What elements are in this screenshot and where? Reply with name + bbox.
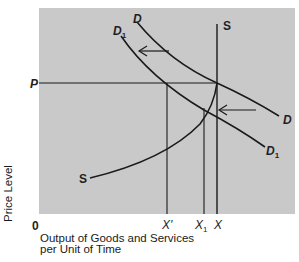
shift-arrow-upper [139,46,169,56]
diagram-lines [0,0,299,262]
demand-shifted-subscript: 1 [275,151,279,160]
demand-curve [137,22,279,116]
x-axis-label: Output of Goods and Services per Unit of… [40,233,194,255]
demand-shifted-letter: D [266,144,275,158]
price-label: P [30,78,38,90]
demand-shifted-label-right: D1 [266,145,279,160]
demand-shifted-label-top: D1 [113,25,126,40]
x1-label: X1 [195,219,207,234]
x-axis-label-line2: per Unit of Time [40,244,194,255]
y-axis-label: Price Level [2,162,14,222]
origin-label: 0 [32,220,39,232]
supply-label-bottom: S [79,173,87,185]
x-label: X [214,219,222,231]
x1-letter: X [195,218,203,232]
x1-subscript: 1 [203,225,207,234]
supply-curve [90,83,217,178]
demand-label-right: D [283,114,292,126]
demand-shifted-letter: D [113,24,122,38]
demand-label-top: D [133,13,142,25]
supply-label-top: S [223,20,231,32]
x-prime-label: X' [162,219,172,231]
shift-arrow-lower [219,105,256,115]
demand-shifted-subscript: 1 [122,31,126,40]
